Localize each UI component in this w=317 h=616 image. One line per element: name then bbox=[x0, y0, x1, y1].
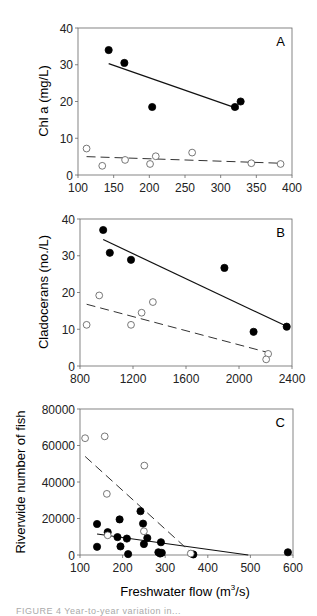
x-tick-label: 200 bbox=[113, 561, 133, 575]
open-data-point bbox=[263, 356, 270, 363]
panel-b: B Cladocerans (no./L) 800120016002000240… bbox=[36, 213, 306, 387]
filled-data-point bbox=[250, 328, 257, 335]
axis-ticks: 100150200250300350400010203040 bbox=[60, 22, 303, 196]
open-data-point bbox=[101, 433, 108, 440]
open-data-point bbox=[122, 157, 129, 164]
y-tick-label: 80000 bbox=[42, 403, 76, 417]
panel-a: A Chl a (mg/L) 1001502002503003504000102… bbox=[36, 22, 302, 196]
x-tick-label: 300 bbox=[211, 181, 231, 195]
open-data-point bbox=[128, 321, 135, 328]
filled-data-point bbox=[116, 516, 123, 523]
y-tick-label: 0 bbox=[68, 549, 75, 563]
open-data-point bbox=[138, 309, 145, 316]
dashed-regression-line bbox=[85, 456, 191, 552]
x-tick-label: 250 bbox=[175, 181, 195, 195]
filled-data-point bbox=[105, 46, 112, 53]
x-tick-label: 1200 bbox=[120, 372, 147, 386]
y-tick-label: 0 bbox=[66, 169, 73, 183]
panel-letter: C bbox=[276, 415, 285, 430]
filled-data-point bbox=[284, 549, 291, 556]
filled-data-point bbox=[123, 535, 130, 542]
open-data-point bbox=[99, 162, 106, 169]
filled-data-point bbox=[157, 539, 164, 546]
open-data-point bbox=[83, 321, 90, 328]
plot-frame bbox=[80, 219, 292, 366]
filled-data-point bbox=[127, 256, 134, 263]
filled-data-point bbox=[137, 508, 144, 515]
y-tick-label: 30 bbox=[60, 58, 74, 72]
y-axis-label: Cladocerans (no./L) bbox=[36, 235, 51, 349]
plot-area bbox=[82, 433, 292, 558]
x-tick-label: 400 bbox=[198, 561, 218, 575]
filled-data-point bbox=[237, 98, 244, 105]
y-tick-label: 20000 bbox=[42, 512, 76, 526]
y-tick-label: 40000 bbox=[42, 476, 76, 490]
x-tick-label: 2400 bbox=[279, 372, 306, 386]
filled-data-point bbox=[93, 520, 100, 527]
x-tick-label: 2000 bbox=[226, 372, 253, 386]
y-tick-label: 20 bbox=[60, 95, 74, 109]
x-tick-label: 100 bbox=[68, 181, 88, 195]
open-data-point bbox=[83, 145, 90, 152]
filled-data-point bbox=[100, 226, 107, 233]
panel-c: C Riverwide number of fish Freshwater fl… bbox=[13, 403, 303, 600]
y-tick-label: 60000 bbox=[42, 439, 76, 453]
y-tick-label: 40 bbox=[62, 213, 76, 227]
open-data-point bbox=[96, 292, 103, 299]
x-tick-label: 1600 bbox=[173, 372, 200, 386]
open-data-point bbox=[277, 161, 284, 168]
figure: A Chl a (mg/L) 1001502002503003504000102… bbox=[0, 0, 317, 616]
y-tick-label: 10 bbox=[62, 323, 76, 337]
x-tick-label: 600 bbox=[283, 561, 303, 575]
x-tick-label: 150 bbox=[104, 181, 124, 195]
x-tick-label: 200 bbox=[139, 181, 159, 195]
axis-ticks: 100200300400500600020000400006000080000 bbox=[42, 403, 304, 576]
open-data-point bbox=[152, 153, 159, 160]
y-tick-label: 30 bbox=[62, 249, 76, 263]
open-data-point bbox=[82, 435, 89, 442]
open-data-point bbox=[103, 490, 110, 497]
open-data-point bbox=[141, 528, 148, 535]
y-axis-label: Riverwide number of fish bbox=[13, 410, 28, 553]
y-axis-label: Chl a (mg/L) bbox=[36, 65, 51, 137]
panel-letter: B bbox=[276, 225, 285, 240]
open-data-point bbox=[141, 462, 148, 469]
plot-frame bbox=[80, 409, 293, 555]
plot-area bbox=[83, 46, 284, 169]
x-axis-label: Freshwater flow (m3/s) bbox=[120, 583, 249, 599]
filled-data-point bbox=[117, 543, 124, 550]
open-data-point bbox=[147, 161, 154, 168]
filled-data-point bbox=[283, 323, 290, 330]
open-data-point bbox=[149, 299, 156, 306]
x-tick-label: 100 bbox=[70, 561, 90, 575]
y-tick-label: 40 bbox=[60, 22, 74, 36]
filled-data-point bbox=[231, 103, 238, 110]
x-tick-label: 800 bbox=[70, 372, 90, 386]
filled-data-point bbox=[114, 534, 121, 541]
open-data-point bbox=[187, 550, 194, 557]
x-tick-label: 500 bbox=[240, 561, 260, 575]
filled-data-point bbox=[149, 103, 156, 110]
filled-data-point bbox=[144, 534, 151, 541]
filled-data-point bbox=[106, 249, 113, 256]
filled-data-point bbox=[93, 543, 100, 550]
y-tick-label: 20 bbox=[62, 286, 76, 300]
x-tick-label: 300 bbox=[155, 561, 175, 575]
solid-regression-line bbox=[103, 240, 287, 327]
filled-data-point bbox=[139, 520, 146, 527]
dashed-regression-line bbox=[87, 304, 267, 352]
filled-data-point bbox=[158, 549, 165, 556]
y-tick-label: 10 bbox=[60, 132, 74, 146]
open-data-point bbox=[104, 532, 111, 539]
open-data-point bbox=[189, 149, 196, 156]
solid-regression-line bbox=[109, 64, 239, 109]
filled-data-point bbox=[125, 550, 132, 557]
open-data-point bbox=[248, 160, 255, 167]
y-tick-label: 0 bbox=[68, 360, 75, 374]
x-tick-label: 400 bbox=[282, 181, 302, 195]
filled-data-point bbox=[221, 264, 228, 271]
plot-area bbox=[83, 226, 290, 362]
figure-caption-fragment: FIGURE 4 Year-to-year variation in... bbox=[16, 606, 181, 616]
x-tick-label: 350 bbox=[246, 181, 266, 195]
filled-data-point bbox=[121, 59, 128, 66]
